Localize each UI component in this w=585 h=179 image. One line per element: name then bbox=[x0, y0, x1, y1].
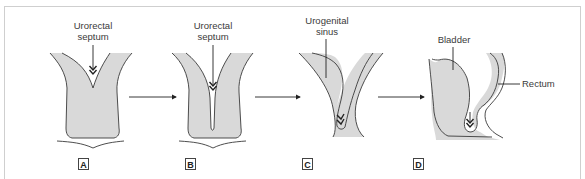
label-b-urorectal-septum: Urorectal septum bbox=[192, 21, 234, 42]
label-d-rectum: Rectum bbox=[522, 79, 558, 90]
panel-letter-c: C bbox=[302, 158, 313, 170]
panel-d-bladder-rectum bbox=[429, 47, 520, 140]
label-a-line1: Urorectal bbox=[72, 21, 114, 32]
panel-b-cloaca bbox=[172, 45, 253, 148]
label-c-urogenital-sinus: Urogenital sinus bbox=[302, 16, 352, 37]
panel-letter-d: D bbox=[413, 158, 424, 170]
panel-a-cloaca bbox=[50, 45, 132, 148]
label-a-line2: septum bbox=[72, 32, 114, 43]
panel-c-urogenital-sinus bbox=[299, 39, 383, 137]
panel-letter-b: B bbox=[185, 158, 196, 170]
label-d-bladder: Bladder bbox=[436, 35, 472, 46]
label-b-line2: septum bbox=[192, 32, 234, 43]
label-d-bladder-text: Bladder bbox=[436, 35, 472, 46]
panel-letter-a: A bbox=[78, 158, 89, 170]
label-d-rectum-text: Rectum bbox=[522, 79, 558, 90]
label-b-line1: Urorectal bbox=[192, 21, 234, 32]
label-a-urorectal-septum: Urorectal septum bbox=[72, 21, 114, 42]
label-c-line2: sinus bbox=[302, 27, 352, 38]
label-c-line1: Urogenital bbox=[302, 16, 352, 27]
